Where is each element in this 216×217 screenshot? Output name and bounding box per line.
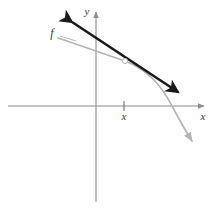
- curve-label-f: f: [50, 26, 55, 40]
- x-axis-label: x: [200, 110, 206, 122]
- tangent-line: [72, 22, 178, 92]
- point-of-tangency: [122, 58, 127, 63]
- x-tick-label: x: [121, 110, 127, 122]
- figure-canvas: y x x f: [0, 0, 216, 217]
- y-axis-label: y: [84, 5, 90, 17]
- tangent-line-figure: y x x f: [0, 0, 216, 217]
